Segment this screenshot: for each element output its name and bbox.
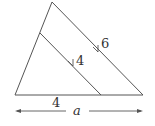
similar-triangles-diagram: 6 4 4 a — [0, 0, 155, 126]
label-inner-base: 4 — [52, 95, 60, 110]
arrow-left-icon — [15, 109, 21, 113]
label-inner-side: 4 — [76, 53, 84, 68]
arrow-right-icon — [137, 109, 143, 113]
label-outer-base: a — [73, 103, 81, 118]
outer-triangle — [15, 2, 143, 95]
label-outer-side: 6 — [101, 36, 109, 51]
